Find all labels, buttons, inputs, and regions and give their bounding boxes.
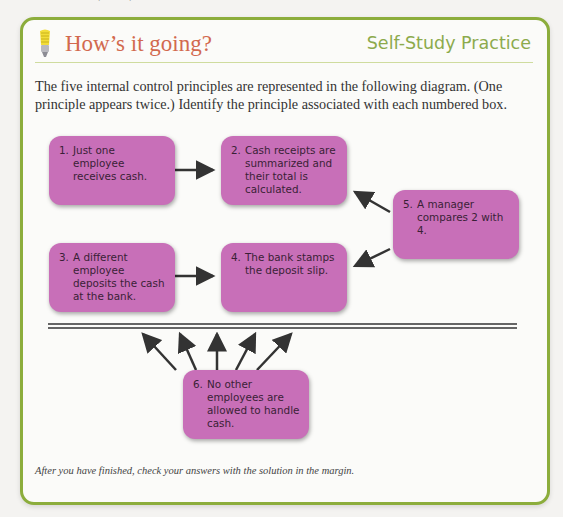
diagram-box-5: 5. A manager compares 2 with 4.: [393, 190, 519, 259]
box-text: Cash receipts are summarized and their t…: [231, 144, 341, 196]
internal-control-diagram: 1. Just one employee receives cash. 2. C…: [23, 20, 547, 502]
diagram-box-4: 4. The bank stamps the deposit slip.: [221, 243, 347, 312]
diagram-box-1: 1. Just one employee receives cash.: [49, 136, 175, 205]
box-text: A manager compares 2 with 4.: [403, 198, 513, 237]
footer-note: After you have finished, check your answ…: [35, 465, 354, 476]
diagram-box-6: 6. No other employees are allowed to han…: [183, 370, 309, 439]
page-running-head: Internal Control, Cash, and Merchandise …: [20, 0, 420, 4]
box-text: A different employee deposits the cash a…: [59, 251, 169, 303]
box-text: The bank stamps the deposit slip.: [231, 251, 341, 277]
box-text: No other employees are allowed to handle…: [193, 378, 303, 430]
diagram-box-3: 3. A different employee deposits the cas…: [49, 243, 175, 312]
box-text: Just one employee receives cash.: [59, 144, 169, 183]
self-study-panel: How’s it going? Self-Study Practice The …: [20, 17, 550, 505]
diagram-box-2: 2. Cash receipts are summarized and thei…: [221, 136, 347, 205]
